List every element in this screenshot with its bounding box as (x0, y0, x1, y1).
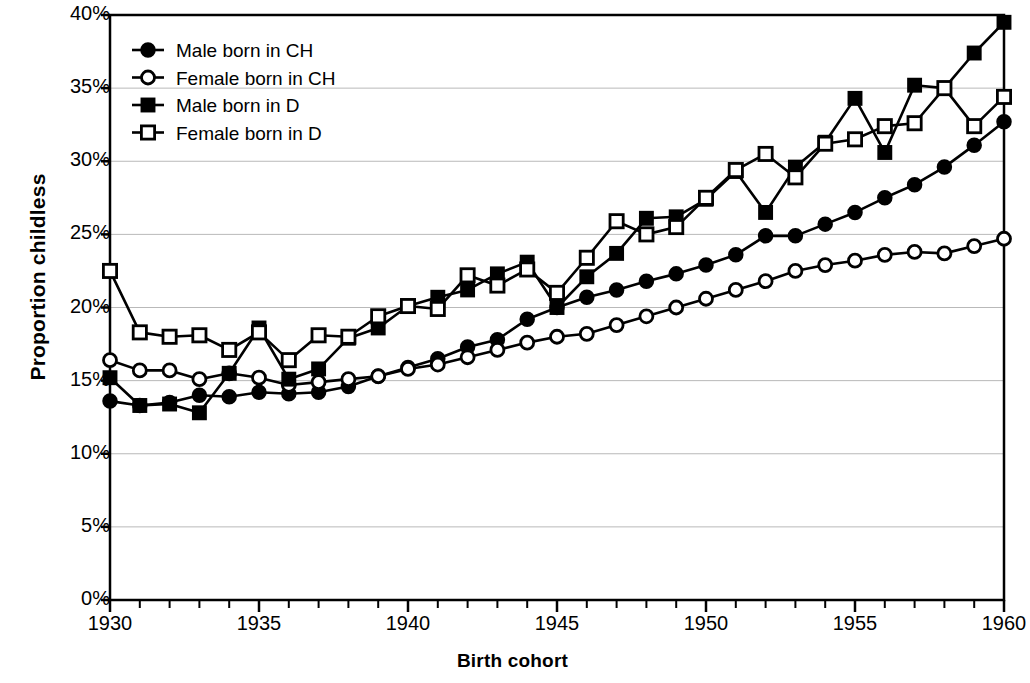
data-point-open-circle (133, 364, 146, 377)
data-point-filled-circle (938, 161, 951, 174)
data-point-filled-circle (700, 259, 713, 272)
data-point-filled-square (142, 99, 154, 111)
data-point-filled-square (968, 47, 980, 59)
data-point-open-circle (938, 247, 951, 260)
data-point-open-square (193, 329, 206, 342)
data-point-open-circle (372, 370, 385, 383)
data-point-open-circle (193, 373, 206, 386)
data-point-open-circle (342, 373, 355, 386)
data-point-filled-circle (104, 395, 117, 408)
data-point-open-circle (610, 319, 623, 332)
data-point-open-square (968, 120, 981, 133)
data-point-open-circle (402, 362, 415, 375)
data-point-filled-square (163, 398, 175, 410)
data-point-open-square (431, 302, 444, 315)
data-point-open-circle (491, 343, 504, 356)
legend-label: Male born in CH (176, 40, 313, 61)
data-point-filled-square (461, 284, 473, 296)
data-point-filled-circle (142, 44, 155, 57)
data-point-open-square (223, 343, 236, 356)
data-point-open-circle (878, 248, 891, 261)
data-point-open-square (848, 133, 861, 146)
data-point-filled-square (223, 367, 235, 379)
data-point-open-square (461, 269, 474, 282)
data-point-open-square (789, 171, 802, 184)
data-point-open-circle (908, 245, 921, 258)
data-point-open-square (312, 329, 325, 342)
data-point-filled-circle (193, 389, 206, 402)
data-point-filled-square (283, 373, 295, 385)
legend-label: Male born in D (176, 95, 300, 116)
data-point-filled-square (849, 92, 861, 104)
data-point-filled-circle (789, 229, 802, 242)
data-point-filled-circle (878, 191, 891, 204)
data-point-open-square (103, 264, 116, 277)
data-point-filled-circle (998, 115, 1011, 128)
data-point-filled-circle (610, 283, 623, 296)
data-point-open-square (550, 286, 563, 299)
data-point-open-square (521, 263, 534, 276)
data-point-open-square (610, 215, 623, 228)
data-point-open-circle (163, 364, 176, 377)
legend-label: Female born in CH (176, 68, 335, 89)
data-point-filled-square (879, 146, 891, 158)
data-point-filled-circle (670, 267, 683, 280)
data-point-filled-circle (729, 248, 742, 261)
data-point-open-square (133, 326, 146, 339)
data-point-open-circle (998, 232, 1011, 245)
data-point-filled-square (610, 247, 622, 259)
data-point-open-square (670, 220, 683, 233)
data-point-open-square (252, 326, 265, 339)
data-point-filled-square (998, 16, 1010, 28)
data-point-filled-circle (819, 218, 832, 231)
data-point-open-circle (789, 264, 802, 277)
data-point-open-square (997, 90, 1010, 103)
data-point-open-circle (461, 351, 474, 364)
data-point-open-square (580, 251, 593, 264)
data-point-filled-circle (640, 275, 653, 288)
series-line (110, 122, 1004, 406)
data-point-filled-circle (580, 291, 593, 304)
data-point-open-square (640, 228, 653, 241)
data-point-open-circle (670, 301, 683, 314)
data-point-open-circle (700, 292, 713, 305)
data-point-filled-circle (223, 390, 236, 403)
data-point-filled-circle (759, 229, 772, 242)
data-point-filled-circle (521, 313, 534, 326)
legend: Male born in CHFemale born in CHMale bor… (132, 40, 335, 144)
data-point-open-square (282, 354, 295, 367)
data-point-open-square (141, 126, 154, 139)
data-point-open-square (401, 299, 414, 312)
data-point-open-square (819, 137, 832, 150)
data-point-filled-square (193, 407, 205, 419)
data-point-open-square (878, 120, 891, 133)
data-point-open-square (491, 279, 504, 292)
data-point-filled-square (640, 212, 652, 224)
data-point-open-circle (312, 376, 325, 389)
data-point-filled-circle (908, 178, 921, 191)
data-point-filled-square (581, 271, 593, 283)
data-point-open-circle (849, 254, 862, 267)
data-point-open-square (908, 117, 921, 130)
data-point-open-square (372, 310, 385, 323)
data-point-open-circle (640, 310, 653, 323)
data-point-filled-square (759, 206, 771, 218)
series-0 (104, 115, 1011, 412)
data-point-filled-square (104, 372, 116, 384)
data-point-open-circle (104, 354, 117, 367)
data-point-open-square (938, 82, 951, 95)
data-point-filled-square (134, 399, 146, 411)
data-point-open-circle (521, 336, 534, 349)
data-point-open-circle (580, 327, 593, 340)
data-point-open-square (759, 147, 772, 160)
data-point-open-square (729, 163, 742, 176)
data-point-filled-circle (849, 206, 862, 219)
data-point-open-circle (968, 240, 981, 253)
data-point-open-circle (551, 330, 564, 343)
data-point-open-circle (819, 259, 832, 272)
data-point-open-circle (142, 71, 155, 84)
data-point-open-circle (253, 371, 266, 384)
data-point-filled-circle (968, 139, 981, 152)
